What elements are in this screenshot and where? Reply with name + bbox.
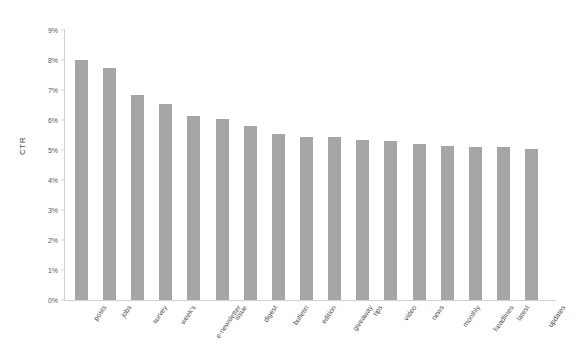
bar: [497, 147, 510, 300]
bar: [103, 68, 116, 301]
y-axis-title: CTR: [18, 137, 27, 155]
x-axis-tick-label: headlines: [492, 304, 515, 333]
x-axis-tick-label: giveaway: [351, 304, 373, 332]
y-axis-tick-label: 6%: [48, 117, 58, 124]
y-axis-tick-mark: [61, 210, 64, 211]
y-axis-tick-label: 7%: [48, 87, 58, 94]
x-axis-line: [64, 300, 556, 301]
x-axis-tick-label: video: [402, 304, 417, 322]
bar: [244, 126, 257, 300]
x-axis-tick-label: week's: [179, 304, 197, 325]
y-axis-tick-mark: [61, 90, 64, 91]
bar: [187, 116, 200, 301]
x-axis-tick-label: news: [430, 304, 445, 321]
bar: [328, 137, 341, 301]
y-axis-tick-mark: [61, 60, 64, 61]
bar: [441, 146, 454, 301]
y-axis-tick-label: 5%: [48, 147, 58, 154]
y-axis-tick-label: 9%: [48, 27, 58, 34]
bar: [159, 104, 172, 301]
bar: [525, 149, 538, 301]
bar: [469, 147, 482, 300]
x-axis-tick-label: updates: [546, 304, 566, 328]
y-axis-tick-label: 1%: [48, 267, 58, 274]
bar-series: [64, 30, 555, 300]
y-axis-tick-mark: [61, 30, 64, 31]
bar: [131, 95, 144, 301]
x-axis-tick-label: monthly: [462, 304, 482, 328]
x-axis-tick-label: edition: [319, 304, 337, 325]
y-axis-tick-mark: [61, 270, 64, 271]
bar: [216, 119, 229, 301]
x-axis-tick-label: jobs: [119, 304, 132, 319]
y-axis-tick-mark: [61, 120, 64, 121]
x-axis-tick-label: digest: [262, 304, 278, 323]
x-axis-tick-label: survey: [151, 304, 169, 325]
y-axis-tick-label: 3%: [48, 207, 58, 214]
x-axis-tick-label: latest: [515, 304, 530, 322]
bar: [272, 134, 285, 301]
y-axis-tick-label: 2%: [48, 237, 58, 244]
y-axis-tick-label: 8%: [48, 57, 58, 64]
x-axis-tick-label: bulletin: [292, 304, 310, 326]
y-axis-tick-mark: [61, 180, 64, 181]
y-axis-tick-mark: [61, 300, 64, 301]
bar: [356, 140, 369, 301]
x-axis-labels: postsjobssurveyweek'se-newsletterissuedi…: [64, 302, 555, 359]
bar: [413, 144, 426, 300]
x-axis-tick-label: tips: [371, 304, 383, 317]
y-axis-tick-mark: [61, 240, 64, 241]
bar: [75, 60, 88, 300]
y-axis-tick-mark: [61, 150, 64, 151]
plot-area: 9%8%7%6%5%4%3%2%1%0%: [64, 30, 555, 300]
y-axis-tick-label: 4%: [48, 177, 58, 184]
bar: [384, 141, 397, 300]
bar: [300, 137, 313, 301]
x-axis-tick-label: posts: [93, 304, 108, 322]
y-axis-tick-label: 0%: [48, 297, 58, 304]
bar-chart: CTR 9%8%7%6%5%4%3%2%1%0% postsjobssurvey…: [0, 0, 576, 359]
